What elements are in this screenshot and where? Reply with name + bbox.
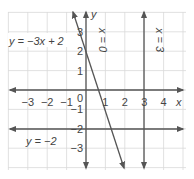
y-tick-label: −2 [70, 123, 83, 135]
equation-label-y-neg2: y = −2 [25, 135, 57, 147]
origin-label: 0 [77, 92, 83, 104]
x-tick-label: 3 [141, 96, 147, 108]
coordinate-plane: −3−2−112340321−1−2−3 x y y = −3x + 2 x =… [0, 0, 194, 179]
x-tick-label: −3 [22, 96, 35, 108]
y-axis-label: y [90, 8, 98, 20]
x-axis-label: x [175, 96, 182, 108]
x-tick-label: 1 [102, 96, 108, 108]
y-tick-label: −3 [70, 142, 83, 154]
y-tick-label: 3 [77, 26, 83, 38]
y-tick-label: −1 [70, 103, 83, 115]
equation-label-x0: x = 0 [97, 27, 109, 53]
x-tick-label: 2 [122, 96, 128, 108]
x-tick-label: 4 [161, 96, 167, 108]
equation-label-line: y = −3x + 2 [8, 35, 64, 47]
x-tick-label: −2 [41, 96, 54, 108]
y-tick-label: 1 [77, 65, 83, 77]
y-tick-label: 2 [77, 45, 83, 57]
equation-label-x3: x = 3 [154, 27, 166, 53]
